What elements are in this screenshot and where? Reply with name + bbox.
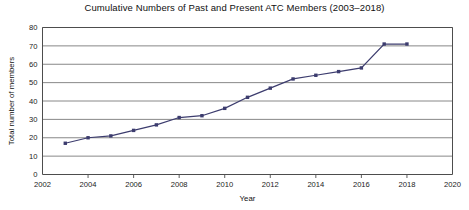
y-tick-label: 80 (29, 23, 37, 32)
data-point-marker (246, 96, 249, 99)
x-axis-tick-labels: 2002200420062008201020122014201620182020 (34, 180, 461, 189)
x-tick-label: 2006 (125, 180, 142, 189)
data-point-marker (360, 66, 363, 69)
y-tick-label: 70 (29, 42, 37, 51)
data-point-marker (405, 42, 408, 45)
x-tick-label: 2016 (353, 180, 370, 189)
data-point-marker (337, 70, 340, 73)
data-point-marker (291, 77, 294, 80)
x-tick-label: 2002 (34, 180, 51, 189)
line-chart-plot: 01020304050607080 2002200420062008201020… (0, 0, 469, 210)
y-tick-label: 40 (29, 97, 37, 106)
x-tick-label: 2010 (216, 180, 233, 189)
data-point-marker (155, 123, 158, 126)
x-tick-label: 2008 (171, 180, 188, 189)
data-point-marker (64, 142, 67, 145)
y-tick-label: 50 (29, 78, 37, 87)
data-series-markers (64, 42, 409, 145)
data-point-marker (109, 134, 112, 137)
x-tick-label: 2004 (80, 180, 97, 189)
data-series-line (65, 44, 407, 143)
y-axis-title: Total number of members (7, 57, 16, 146)
data-point-marker (382, 42, 385, 45)
x-tick-label: 2018 (398, 180, 415, 189)
data-point-marker (269, 86, 272, 89)
y-axis-tick-labels: 01020304050607080 (29, 23, 37, 179)
y-tick-label: 10 (29, 152, 37, 161)
x-tick-label: 2012 (262, 180, 279, 189)
x-tick-label: 2014 (307, 180, 324, 189)
x-axis-tick-marks (88, 175, 407, 179)
data-point-marker (86, 136, 89, 139)
y-tick-label: 30 (29, 115, 37, 124)
data-point-marker (200, 114, 203, 117)
x-axis-title: Year (240, 194, 256, 203)
data-point-marker (132, 129, 135, 132)
data-point-marker (177, 116, 180, 119)
data-point-marker (314, 74, 317, 77)
y-tick-label: 0 (33, 170, 37, 179)
y-tick-label: 60 (29, 60, 37, 69)
chart-figure: Cumulative Numbers of Past and Present A… (0, 0, 469, 210)
y-tick-label: 20 (29, 133, 37, 142)
data-point-marker (223, 107, 226, 110)
x-tick-label: 2020 (444, 180, 461, 189)
